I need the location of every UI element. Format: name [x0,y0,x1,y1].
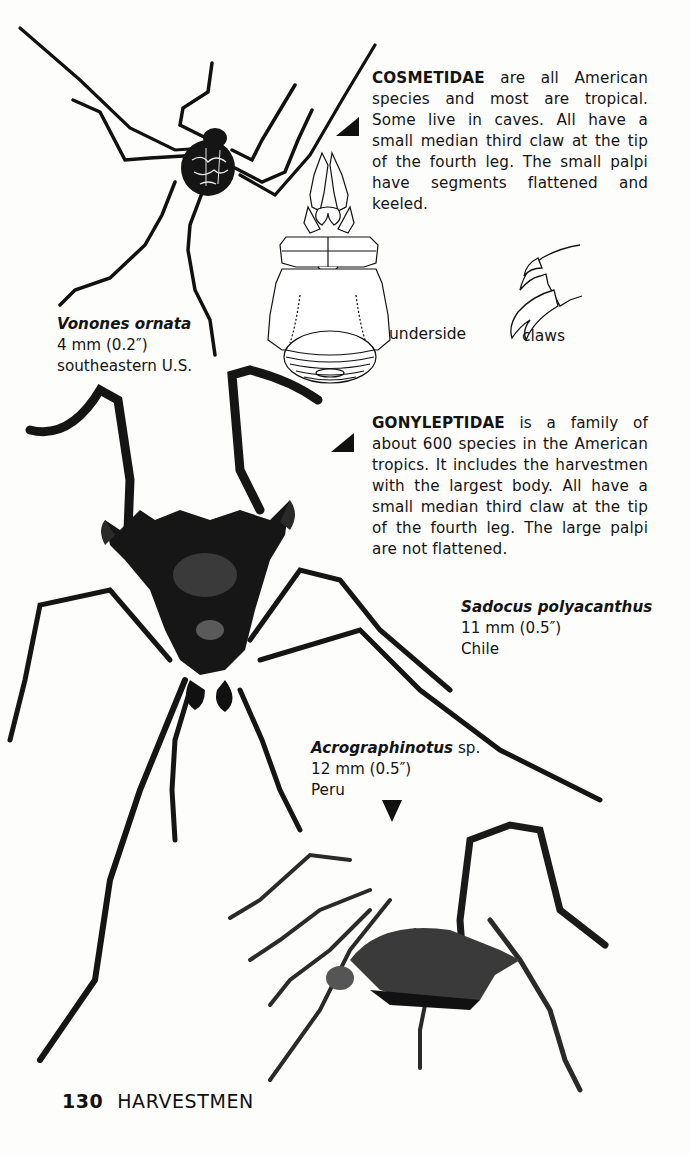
caption-sadocus-polyacanthus: Sadocus polyacanthus 11 mm (0.5″) Chile [461,597,652,660]
gonyleptidae-paragraph: GONYLEPTIDAE is a family of about 600 sp… [372,413,648,560]
species-size: 11 mm (0.5″) [461,618,652,639]
claws-label: claws [522,327,565,345]
cosmetidae-description: are all American species and most are tr… [372,69,648,213]
underside-label: underside [389,325,466,343]
cosmetidae-paragraph: COSMETIDAE are all American species and … [372,68,648,215]
species-name: Sadocus polyacanthus [461,598,652,616]
pointer-triangle-cosmetidae [336,117,359,136]
caption-vonones-ornata: Vonones ornata 4 mm (0.2″) southeastern … [57,314,192,377]
family-name-gonyleptidae: GONYLEPTIDAE [372,414,505,432]
species-range: Chile [461,639,652,660]
species-qualifier: sp. [453,739,480,757]
species-name: Vonones ornata [57,315,191,333]
species-range: southeastern U.S. [57,356,192,377]
species-size: 4 mm (0.2″) [57,335,192,356]
species-name: Acrographinotus [311,739,453,757]
gonyleptidae-description: is a family of about 600 species in the … [372,414,648,558]
acrographinotus-illustration [220,800,620,1110]
pointer-triangle-gonyleptidae [331,433,354,452]
species-range: Peru [311,780,480,801]
caption-acrographinotus: Acrographinotus sp. 12 mm (0.5″) Peru [311,738,480,801]
running-title: HARVESTMEN [117,1090,254,1112]
page-footer: 130HARVESTMEN [62,1090,254,1112]
pointer-triangle-acrographinotus [382,800,402,822]
page-number: 130 [62,1090,103,1112]
species-size: 12 mm (0.5″) [311,759,480,780]
family-name-cosmetidae: COSMETIDAE [372,69,485,87]
